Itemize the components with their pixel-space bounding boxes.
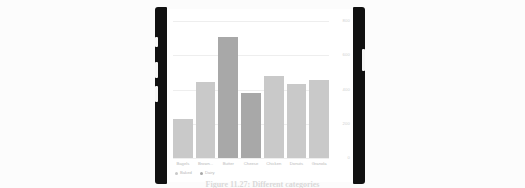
x-axis-labels: BagelsBrown...ButterCheeseChickenDonutsG… [173,162,329,166]
legend-swatch-icon [200,172,203,175]
x-tick-label: Butter [218,162,238,166]
bar-slot [196,21,216,158]
x-tick-label: Bagels [173,162,193,166]
mobile-device-frame: 0200400600800 BagelsBrown...ButterCheese… [155,7,365,184]
bar-slot [309,21,329,158]
x-tick-label: Donuts [287,162,307,166]
bar-slot [241,21,261,158]
bar-slot [264,21,284,158]
power-button[interactable] [362,49,365,71]
chart-bars [173,21,329,158]
page-background: 0200400600800 BagelsBrown...ButterCheese… [0,0,525,188]
x-tick-label: Cheese [241,162,261,166]
x-tick-label: Granola [309,162,329,166]
y-axis: 0200400600800 [329,21,351,158]
y-tick-label: 0 [347,156,350,160]
silent-switch-icon[interactable] [155,37,158,47]
figure-caption: Figure 11.27: Different categories [0,180,525,188]
bar-slot [287,21,307,158]
chart-plot-area [173,21,329,158]
legend-item-baked[interactable]: Baked [175,171,192,175]
device-screen: 0200400600800 BagelsBrown...ButterCheese… [167,9,353,182]
legend-swatch-icon [175,172,178,175]
bar-slot [218,21,238,158]
device-right-bezel [353,7,365,184]
bar-cheese[interactable] [241,93,261,158]
y-tick-label: 600 [342,53,350,57]
bar-chicken[interactable] [264,76,284,158]
legend-label: Baked [180,171,192,175]
y-tick-label: 800 [342,19,350,23]
bar-bagels[interactable] [173,119,193,158]
y-tick-label: 200 [342,122,350,126]
bar-brown[interactable] [196,82,216,158]
bar-granola[interactable] [309,80,329,158]
volume-up-button[interactable] [155,62,158,78]
bar-butter[interactable] [218,37,238,158]
device-left-bezel [155,7,167,184]
bar-slot [173,21,193,158]
x-tick-label: Brown... [196,162,216,166]
y-tick-label: 400 [342,87,350,91]
legend-label: Dairy [205,171,215,175]
volume-down-button[interactable] [155,86,158,102]
chart-legend: BakedDairy [175,171,215,175]
x-tick-label: Chicken [264,162,284,166]
bar-donuts[interactable] [287,84,307,158]
gridline-0 [173,158,329,159]
legend-item-dairy[interactable]: Dairy [200,171,215,175]
bar-chart: 0200400600800 BagelsBrown...ButterCheese… [171,15,351,178]
